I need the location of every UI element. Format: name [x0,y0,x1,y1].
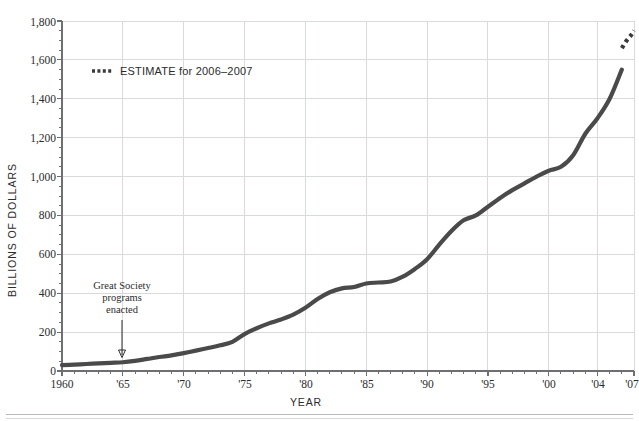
y-tick-label-1200: 1,200 [30,132,56,145]
line-chart: 0 200 400 600 800 1,000 1,200 1,400 1,60… [0,0,639,421]
legend-estimate-label: ESTIMATE for 2006–2007 [120,65,253,77]
y-tick-label-400: 400 [39,287,57,299]
x-tick-label-2000: '00 [542,378,556,390]
y-tick-label-600: 600 [39,248,57,260]
y-axis-tick-labels: 0 200 400 600 800 1,000 1,200 1,400 1,60… [30,16,56,377]
annotation-line-1: Great Society [93,280,151,291]
y-tick-label-1400: 1,400 [30,93,56,106]
y-tick-label-800: 800 [39,209,57,221]
x-axis [62,371,634,376]
y-tick-label-0: 0 [50,365,56,377]
data-line-actual [62,70,622,366]
x-tick-label-1960: 1960 [51,378,74,390]
x-tick-label-1985: '85 [360,378,374,390]
y-tick-label-1800: 1,800 [30,16,56,29]
data-line-estimate [622,31,634,49]
y-tick-label-1000: 1,000 [30,171,56,184]
annotation-line-2: programs [102,292,142,303]
x-tick-label-2004: '04 [591,378,605,390]
annotation-line-3: enacted [106,304,139,315]
legend: ESTIMATE for 2006–2007 [92,65,253,77]
y-axis-title: BILLIONS OF DOLLARS [6,163,18,297]
y-tick-label-200: 200 [39,326,57,338]
y-axis [57,21,62,371]
x-tick-label-1965: '65 [116,378,130,390]
x-tick-label-1990: '90 [420,378,434,390]
x-tick-label-1980: '80 [299,378,313,390]
x-tick-label-1970: '70 [177,378,191,390]
x-axis-title: YEAR [290,396,322,408]
x-tick-label-1995: '95 [481,378,495,390]
y-tick-label-1600: 1,600 [30,54,56,67]
x-tick-label-2007: '07 [625,378,639,390]
x-axis-tick-labels: 1960 '65 '70 '75 '80 '85 '90 '95 '00 '04… [51,378,639,390]
chart-container: 0 200 400 600 800 1,000 1,200 1,400 1,60… [0,0,639,421]
x-tick-label-1975: '75 [238,378,252,390]
x-axis-major-ticks [62,371,634,376]
